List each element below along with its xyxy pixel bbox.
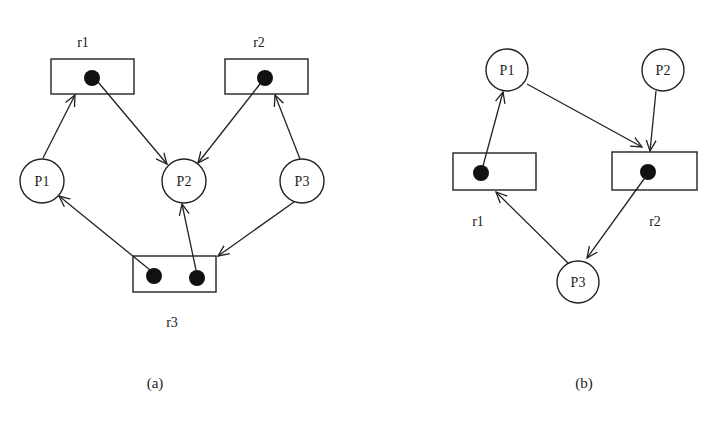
process-p2: P2 [642, 49, 684, 91]
process-p3: P3 [280, 159, 324, 203]
process-p1: P1 [486, 49, 528, 91]
edge-r2-to-p3 [587, 179, 644, 258]
process-label: P3 [571, 275, 586, 290]
process-label: P2 [656, 63, 671, 78]
resource-label: r1 [472, 214, 484, 229]
edge-p3-to-r3 [218, 202, 294, 256]
resource-label: r1 [77, 35, 89, 50]
edge-r2-to-p2 [198, 84, 260, 163]
process-p1: P1 [20, 159, 64, 203]
instance-dot [473, 165, 489, 181]
process-label: P2 [177, 174, 192, 189]
resource-allocation-graphs: r1 r2 r3 P1 P2 P3 [0, 0, 723, 423]
edge-p3-to-r2 [275, 95, 300, 159]
edge-p2-to-r2 [650, 91, 656, 151]
instance-dot [640, 164, 656, 180]
edge-p3-to-r1 [496, 192, 568, 263]
instance-dot [189, 270, 205, 286]
caption-a: (a) [147, 375, 164, 392]
instance-dot [84, 70, 100, 86]
caption-b: (b) [575, 375, 593, 392]
edge-p1-to-r2 [527, 84, 642, 147]
resource-label: r2 [253, 35, 265, 50]
resource-r2: r2 [612, 152, 697, 229]
process-p2: P2 [162, 159, 206, 203]
process-label: P1 [35, 174, 50, 189]
edge-r3-to-p1 [59, 196, 150, 270]
process-p3: P3 [557, 261, 599, 303]
diagram-b: P1 P2 P3 r1 r2 (b) [453, 49, 697, 392]
instance-dot [257, 70, 273, 86]
resource-label: r2 [649, 214, 661, 229]
diagram-a: r1 r2 r3 P1 P2 P3 [20, 35, 324, 392]
process-label: P3 [295, 174, 310, 189]
resource-label: r3 [166, 315, 178, 330]
process-label: P1 [500, 63, 515, 78]
resource-r1: r1 [453, 153, 536, 229]
resource-r2: r2 [225, 35, 308, 94]
resource-r1: r1 [51, 35, 134, 94]
edge-p1-to-r1 [43, 95, 75, 158]
instance-dot [146, 268, 162, 284]
